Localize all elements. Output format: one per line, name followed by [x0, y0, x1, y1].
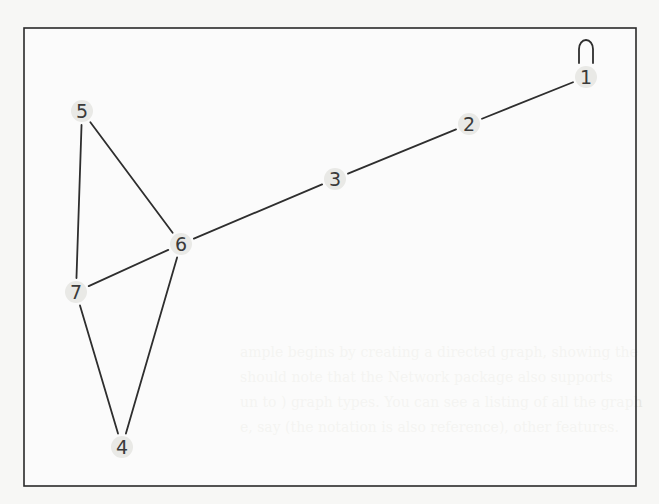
node-label: 6: [175, 233, 187, 255]
node-label: 7: [70, 281, 82, 303]
node-label: 2: [463, 113, 475, 135]
plot-frame: [24, 28, 636, 486]
node-1: 1: [575, 66, 597, 88]
graph-diagram: 1234567: [0, 0, 659, 504]
node-2: 2: [458, 113, 480, 135]
node-5: 5: [71, 100, 93, 122]
node-6: 6: [170, 233, 192, 255]
node-7: 7: [65, 281, 87, 303]
node-label: 5: [76, 100, 88, 122]
node-3: 3: [324, 168, 346, 190]
node-4: 4: [111, 436, 133, 458]
node-label: 3: [329, 168, 341, 190]
node-label: 1: [580, 66, 592, 88]
node-label: 4: [116, 436, 128, 458]
